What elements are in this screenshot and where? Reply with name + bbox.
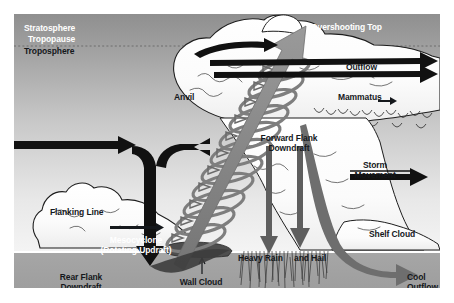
- label-forward-flank-downdraft-line2: Downdraft: [246, 143, 332, 153]
- label-cool-outflow: Cool Outflow: [407, 272, 438, 288]
- diagram-page: Stratosphere Tropopause Troposphere Over…: [0, 0, 454, 303]
- label-mesocyclone: Mesocyclone (Rotating Updraft): [84, 235, 188, 255]
- rear-flank-upper-branch: [156, 138, 210, 168]
- label-mesocyclone-line1: Mesocyclone: [84, 235, 188, 245]
- label-cool-outflow-line1: Cool: [407, 272, 438, 282]
- inflow-arrow: [14, 136, 136, 154]
- label-wall-cloud-line1: Wall Cloud: [152, 277, 250, 287]
- label-storm-movement-line1: Storm: [344, 160, 406, 170]
- layer-label-tropopause: Tropopause: [28, 34, 75, 44]
- label-forward-flank-downdraft: Forward Flank Downdraft: [246, 133, 332, 153]
- label-overshooting-top: Overshooting Top: [311, 22, 382, 32]
- airflow-layer: [14, 14, 440, 288]
- label-wall-cloud: Wall Cloud (Pedestal Cloud): [152, 277, 250, 288]
- anvil-backflow-arrow: [194, 38, 278, 58]
- outflow-arrow-lower: [214, 65, 438, 83]
- label-and-hail: and Hail: [294, 253, 326, 263]
- label-mesocyclone-line2: (Rotating Updraft): [84, 245, 188, 255]
- forward-flank-downdraft-arrow-left: [260, 146, 278, 254]
- label-wall-cloud-line2: (Pedestal Cloud): [152, 287, 250, 288]
- label-storm-movement: Storm Movement: [344, 160, 406, 180]
- label-rear-flank-downdraft: Rear Flank Downdraft: [42, 272, 120, 288]
- label-rear-flank-downdraft-line2: Downdraft: [42, 282, 120, 288]
- outflow-arrow-upper: [210, 52, 438, 70]
- supercell-diagram: Stratosphere Tropopause Troposphere Over…: [14, 14, 440, 288]
- label-heavy-rain: Heavy Rain: [238, 253, 283, 263]
- label-cool-outflow-line2: Outflow: [407, 282, 438, 288]
- label-outflow: Outflow: [346, 62, 377, 72]
- label-shelf-cloud: Shelf Cloud: [369, 229, 415, 239]
- label-forward-flank-downdraft-line1: Forward Flank: [246, 133, 332, 143]
- label-mammatus: Mammatus: [338, 92, 382, 102]
- label-flanking-line: Flanking Line: [50, 207, 103, 217]
- label-rear-flank-downdraft-line1: Rear Flank: [42, 272, 120, 282]
- label-storm-movement-line2: Movement: [344, 170, 406, 180]
- layer-label-troposphere: Troposphere: [24, 46, 74, 56]
- label-anvil: Anvil: [174, 92, 194, 102]
- layer-label-stratosphere: Stratosphere: [24, 23, 75, 33]
